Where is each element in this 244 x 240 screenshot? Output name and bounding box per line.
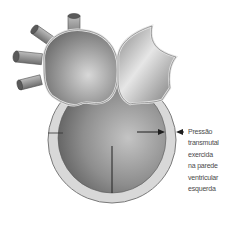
vessel-lower-left	[16, 75, 42, 91]
annotation-line-6: esquerda	[188, 183, 244, 194]
left-atrium	[44, 30, 118, 106]
annotation-line-4: na parede	[188, 160, 244, 171]
vessel-middle-left	[12, 51, 42, 65]
annotation-line-1: Pressão	[188, 126, 244, 137]
annotation-line-5: ventricular	[188, 172, 244, 183]
pressure-arrow-outer	[176, 129, 184, 135]
right-chamber	[118, 26, 176, 104]
annotation-line-2: transmutal	[188, 137, 244, 148]
annotation-line-3: exercida	[188, 149, 244, 160]
pressure-annotation: Pressão transmutal exercida na parede ve…	[188, 126, 244, 194]
